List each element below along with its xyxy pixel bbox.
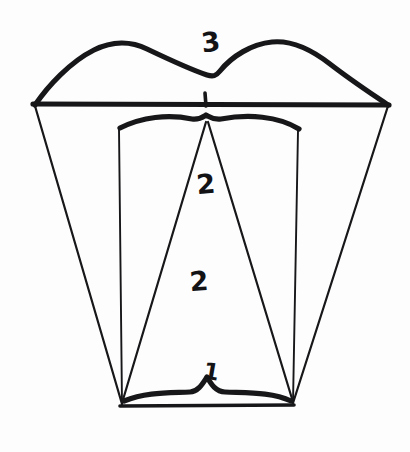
line-drawing: 3 2 2 1: [0, 0, 410, 452]
apex-base-line-path: [120, 405, 294, 406]
figure-canvas: 3 2 2 1: [0, 0, 410, 452]
center-tick-mark: [205, 93, 206, 106]
cervical-line-path: [33, 104, 389, 105]
label-2-upper: 2: [195, 168, 216, 201]
label-3: 3: [200, 25, 222, 58]
label-2-lower: 2: [188, 265, 209, 297]
